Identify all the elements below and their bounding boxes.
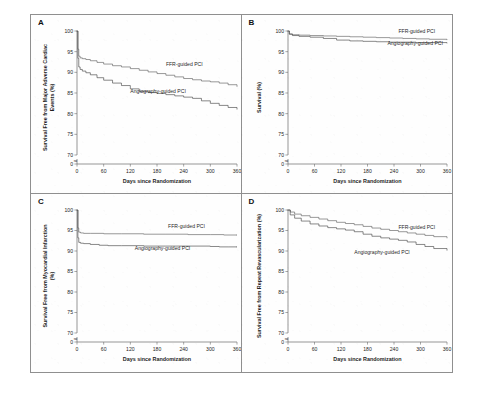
- curve-label-angiography: Angiography-guided PCI: [387, 40, 443, 46]
- panel-grid: A 7075808590951000≈060120180240300360Day…: [31, 15, 452, 372]
- panel-c: C 7075808590951000≈060120180240300360Day…: [31, 194, 242, 373]
- x-tick-label: 180: [153, 168, 162, 174]
- x-tick-label: 240: [389, 168, 398, 174]
- x-axis-title: Days since Randomization: [123, 355, 191, 361]
- y-tick-label: 85: [67, 90, 73, 96]
- y-tick-label: 95: [278, 227, 284, 233]
- y-tick-label: 75: [278, 309, 284, 315]
- x-tick-label: 120: [126, 168, 135, 174]
- y-tick-label: 80: [278, 111, 284, 117]
- x-tick-label: 60: [101, 168, 107, 174]
- x-tick-label: 180: [363, 168, 372, 174]
- y-tick-label: 80: [278, 288, 284, 294]
- x-tick-label: 300: [206, 168, 215, 174]
- x-tick-label: 120: [336, 168, 345, 174]
- x-axis-title: Days since Randomization: [123, 178, 191, 184]
- x-tick-label: 300: [206, 345, 215, 351]
- x-tick-label: 240: [179, 345, 188, 351]
- y-tick-label: 75: [278, 131, 284, 137]
- figure-frame: A 7075808590951000≈060120180240300360Day…: [30, 14, 453, 373]
- x-tick-label: 180: [363, 345, 372, 351]
- curve-label-ffr: FFR-guided PCI: [398, 28, 435, 34]
- y-axis-break-symbol: ≈: [284, 157, 288, 164]
- y-tick-label: 90: [67, 69, 73, 75]
- y-tick-label: 100: [275, 28, 284, 34]
- plot-b: 7075808590951000≈060120180240300360Days …: [242, 15, 453, 194]
- y-axis-title: Survival (%): [256, 82, 262, 113]
- panel-a: A 7075808590951000≈060120180240300360Day…: [31, 15, 242, 194]
- y-tick-label: 100: [275, 206, 284, 212]
- curve-label-angiography: Angiography-guided PCI: [354, 248, 410, 254]
- y-tick-label: 75: [67, 309, 73, 315]
- curve-label-angiography: Angiography-guided PCI: [130, 88, 186, 94]
- curve-label-ffr: FFR-guided PCI: [168, 223, 205, 229]
- curve-label-ffr: FFR-guided PCI: [398, 224, 435, 230]
- y-tick-label: 100: [65, 206, 74, 212]
- km-curve-angiography: [77, 210, 237, 247]
- panel-d: D 7075808590951000≈060120180240300360Day…: [242, 194, 453, 373]
- panel-b: B 7075808590951000≈060120180240300360Day…: [242, 15, 453, 194]
- y-tick-label: 75: [67, 131, 73, 137]
- x-axis-title: Days since Randomization: [333, 178, 401, 184]
- x-axis-title: Days since Randomization: [333, 355, 401, 361]
- y-axis-title-line2: (%): [49, 271, 55, 280]
- x-tick-label: 60: [311, 168, 317, 174]
- km-curve-ffr: [77, 210, 237, 235]
- y-tick-label: 95: [67, 227, 73, 233]
- x-tick-label: 0: [286, 345, 289, 351]
- y-tick-label: 85: [67, 268, 73, 274]
- plot-a: 7075808590951000≈060120180240300360Days …: [31, 15, 242, 194]
- plot-d: 7075808590951000≈060120180240300360Days …: [242, 194, 453, 373]
- y-tick-label: 100: [65, 28, 74, 34]
- x-tick-label: 240: [179, 168, 188, 174]
- y-tick-label: 70: [67, 329, 73, 335]
- y-tick-label-zero: 0: [70, 338, 73, 344]
- x-tick-label: 60: [101, 345, 107, 351]
- y-tick-label: 90: [278, 69, 284, 75]
- y-tick-label: 70: [278, 329, 284, 335]
- plot-c: 7075808590951000≈060120180240300360Days …: [31, 194, 242, 373]
- y-tick-label: 90: [67, 247, 73, 253]
- x-tick-label: 0: [286, 168, 289, 174]
- x-tick-label: 360: [442, 345, 451, 351]
- y-tick-label: 90: [278, 247, 284, 253]
- y-tick-label: 80: [67, 288, 73, 294]
- y-axis-title-line2: Events (%): [49, 84, 55, 112]
- y-tick-label: 70: [67, 152, 73, 158]
- y-axis-break-symbol: ≈: [74, 334, 78, 341]
- x-tick-label: 0: [76, 168, 79, 174]
- x-tick-label: 180: [153, 345, 162, 351]
- x-tick-label: 360: [442, 168, 451, 174]
- x-tick-label: 300: [416, 168, 425, 174]
- y-tick-label-zero: 0: [281, 161, 284, 167]
- y-axis-title: Survival Free from Repeat Revascularizat…: [256, 213, 262, 337]
- y-tick-label: 85: [278, 90, 284, 96]
- curve-label-angiography: Angiography-guided PCI: [135, 244, 191, 250]
- x-tick-label: 60: [311, 345, 317, 351]
- x-tick-label: 360: [233, 345, 242, 351]
- y-tick-label: 85: [278, 268, 284, 274]
- y-tick-label: 95: [67, 49, 73, 55]
- x-tick-label: 240: [389, 345, 398, 351]
- y-tick-label-zero: 0: [70, 161, 73, 167]
- y-axis-break-symbol: ≈: [284, 334, 288, 341]
- y-axis-break-symbol: ≈: [74, 157, 78, 164]
- x-tick-label: 300: [416, 345, 425, 351]
- x-tick-label: 120: [336, 345, 345, 351]
- y-axis-title-line1: Survival Free from Major Adverse Cardiac: [42, 44, 48, 151]
- km-curve-angiography: [77, 31, 237, 109]
- y-tick-label: 95: [278, 49, 284, 55]
- km-curve-ffr: [77, 31, 237, 86]
- y-tick-label: 80: [67, 111, 73, 117]
- y-tick-label: 70: [278, 152, 284, 158]
- curve-label-ffr: FFR-guided PCI: [166, 61, 203, 67]
- y-tick-label-zero: 0: [281, 338, 284, 344]
- x-tick-label: 360: [233, 168, 242, 174]
- x-tick-label: 0: [76, 345, 79, 351]
- y-axis-title-line1: Survival Free from Myocardial Infarction: [42, 224, 48, 327]
- x-tick-label: 120: [126, 345, 135, 351]
